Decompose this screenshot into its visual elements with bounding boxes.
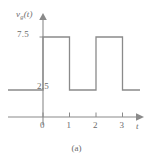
x-tick-label-0: 0 <box>40 121 45 130</box>
waveform-plot <box>0 0 153 165</box>
x-axis-ticks <box>43 113 123 118</box>
square-wave-trace <box>8 37 140 90</box>
figure-caption: (a) <box>0 143 153 153</box>
x-tick-label-1: 1 <box>67 121 72 130</box>
y-axis-label: vg(t) <box>16 10 33 21</box>
x-tick-label-2: 2 <box>93 121 98 130</box>
x-tick-label-3: 3 <box>120 121 125 130</box>
x-axis-label: t <box>136 122 139 131</box>
x-axis-arrowhead <box>136 113 144 121</box>
figure-container: vg(t) 7.5 2.5 0 1 2 3 t (a) <box>0 0 153 165</box>
y-axis-arrowhead <box>39 13 47 20</box>
y-tick-label-7point5: 7.5 <box>17 30 29 39</box>
y-axis-label-arg: (t) <box>24 9 33 19</box>
y-tick-label-2point5: 2.5 <box>37 82 49 91</box>
